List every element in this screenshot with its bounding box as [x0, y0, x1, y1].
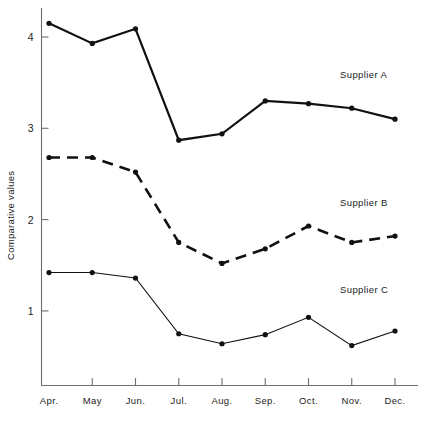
- data-point-marker: [46, 155, 51, 160]
- data-point-marker: [133, 26, 138, 31]
- chart-container: 1234 Apr.MayJun.Jul.Aug.Sep.Oct.Nov.Dec.…: [0, 0, 423, 422]
- x-tick-label: May: [83, 395, 102, 406]
- data-point-marker: [349, 240, 354, 245]
- data-point-marker: [46, 270, 51, 275]
- line-chart: 1234 Apr.MayJun.Jul.Aug.Sep.Oct.Nov.Dec.…: [0, 0, 423, 422]
- data-point-marker: [263, 332, 268, 337]
- series-3: [46, 270, 397, 348]
- data-point-marker: [349, 106, 354, 111]
- data-point-marker: [219, 131, 224, 136]
- data-point-marker: [219, 261, 224, 266]
- data-point-marker: [306, 223, 311, 228]
- data-point-marker: [306, 101, 311, 106]
- data-point-marker: [392, 233, 397, 238]
- data-point-marker: [349, 343, 354, 348]
- y-axis-title: Comparative values: [5, 171, 16, 260]
- series-1: [46, 21, 397, 143]
- series-annotation-label: Supplier B: [340, 197, 388, 208]
- data-point-marker: [392, 328, 397, 333]
- series-polyline: [49, 158, 395, 264]
- x-tick-label: Jun.: [126, 395, 146, 406]
- y-tick-label: 3: [28, 122, 34, 134]
- y-tick-label: 2: [28, 214, 34, 226]
- x-tick-label: Jul.: [171, 395, 187, 406]
- x-tick-group: Apr.MayJun.Jul.Aug.Sep.Oct.Nov.Dec.: [40, 378, 406, 406]
- data-point-marker: [90, 41, 95, 46]
- x-tick-label: Dec.: [384, 395, 405, 406]
- x-tick-label: Aug.: [211, 395, 232, 406]
- data-point-marker: [176, 331, 181, 336]
- data-point-marker: [90, 155, 95, 160]
- data-point-marker: [263, 98, 268, 103]
- y-tick-label: 1: [28, 305, 34, 317]
- data-point-marker: [219, 341, 224, 346]
- data-point-marker: [133, 275, 138, 280]
- series-polyline: [49, 23, 395, 140]
- series-annotation-label: Supplier A: [340, 69, 388, 80]
- data-point-marker: [176, 138, 181, 143]
- x-axis: Apr.MayJun.Jul.Aug.Sep.Oct.Nov.Dec.: [40, 378, 418, 406]
- data-point-marker: [263, 246, 268, 251]
- x-tick-label: Apr.: [40, 395, 59, 406]
- data-point-marker: [133, 170, 138, 175]
- x-tick-label: Oct.: [299, 395, 318, 406]
- x-tick-label: Sep.: [255, 395, 276, 406]
- data-point-marker: [392, 117, 397, 122]
- series-label-group: Supplier ASupplier BSupplier C: [340, 69, 388, 295]
- y-axis: 1234: [28, 8, 49, 386]
- y-tick-group: 1234: [28, 31, 49, 317]
- y-tick-label: 4: [28, 31, 34, 43]
- data-point-marker: [46, 21, 51, 26]
- series-annotation-label: Supplier C: [340, 284, 388, 295]
- data-point-marker: [90, 270, 95, 275]
- x-tick-label: Nov.: [342, 395, 362, 406]
- series-2: [46, 155, 397, 266]
- data-point-marker: [306, 315, 311, 320]
- data-point-marker: [176, 240, 181, 245]
